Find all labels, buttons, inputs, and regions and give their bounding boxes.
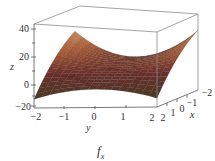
y-tick-2: 2 bbox=[150, 112, 155, 123]
y-axis bbox=[34, 105, 157, 109]
y-tick-1: 1 bbox=[121, 111, 126, 122]
x-tick-1: 1 bbox=[171, 107, 176, 118]
z-axis bbox=[31, 24, 36, 108]
y-tick-neg1: −1 bbox=[59, 111, 70, 122]
z-tick-20: 20 bbox=[19, 51, 29, 62]
z-tick-0: 0 bbox=[24, 79, 29, 90]
surface-plot: 40 20 0 −20 z −2 −1 0 1 2 y 2 1 0 −1 −2 … bbox=[0, 0, 215, 161]
z-axis-label: z bbox=[9, 61, 14, 72]
x-tick-neg1: −1 bbox=[187, 97, 198, 108]
x-tick-neg2: −2 bbox=[202, 87, 213, 98]
y-tick-neg2: −2 bbox=[31, 111, 42, 122]
z-tick-neg20: −20 bbox=[15, 101, 31, 112]
x-axis-label: x bbox=[189, 109, 195, 120]
x-tick-2: 2 bbox=[161, 112, 166, 123]
caption-subscript: x bbox=[101, 152, 105, 161]
y-axis-label: y bbox=[85, 122, 91, 133]
y-tick-0: 0 bbox=[92, 111, 97, 122]
figure-caption: fx bbox=[97, 143, 104, 161]
surface-mesh bbox=[34, 30, 198, 99]
z-tick-40: 40 bbox=[19, 23, 29, 34]
x-tick-0: 0 bbox=[180, 103, 185, 114]
